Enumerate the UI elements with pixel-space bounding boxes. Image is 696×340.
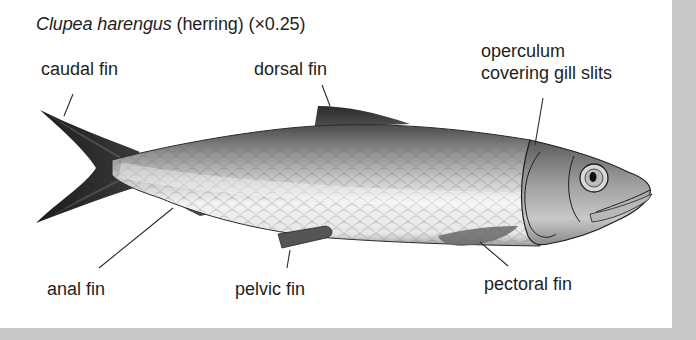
- leader-dorsal: [322, 85, 330, 106]
- label-operculum: operculum covering gill slits: [481, 40, 612, 84]
- label-pelvic-fin: pelvic fin: [235, 278, 305, 300]
- label-pectoral-fin: pectoral fin: [484, 273, 572, 295]
- leader-operculum: [535, 98, 543, 145]
- label-operculum-line1: operculum: [481, 40, 612, 62]
- fish-head: [522, 140, 651, 245]
- label-dorsal-fin: dorsal fin: [254, 58, 327, 80]
- label-caudal-fin: caudal fin: [41, 58, 118, 80]
- leader-pelvic: [287, 250, 290, 268]
- label-anal-fin: anal fin: [47, 278, 105, 300]
- label-operculum-line2: covering gill slits: [481, 62, 612, 84]
- leader-caudal: [64, 94, 73, 116]
- diagram-canvas: Clupea harengus (herring) (×0.25): [0, 0, 696, 340]
- leader-anal: [99, 208, 173, 268]
